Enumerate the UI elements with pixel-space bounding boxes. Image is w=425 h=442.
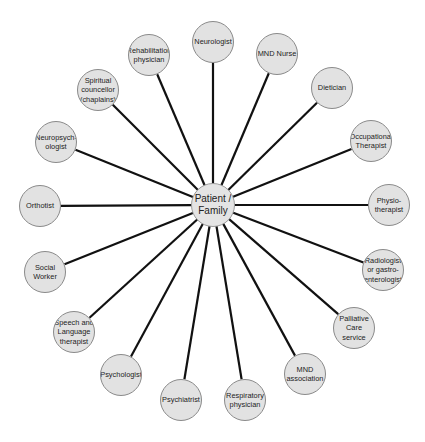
node-label: Psychiatrist: [162, 395, 200, 404]
node-label: MND Nurse: [258, 49, 297, 58]
node-label: Social Worker: [33, 263, 57, 282]
node-label: Respiratory physician: [226, 391, 264, 410]
node-label: Rehabilitation physician: [128, 46, 170, 65]
node-psychologist: Psychologist: [100, 354, 142, 396]
node-neurologist: Neurologist: [192, 21, 234, 63]
center-node-patient-family: Patient / Family: [191, 183, 235, 227]
node-label: Palliative Care service: [334, 314, 374, 342]
node-mnd-nurse: MND Nurse: [256, 33, 298, 75]
node-label: Occupational Therapist: [350, 132, 392, 151]
node-neuropsychologist: Neuropsych- ologist: [35, 121, 77, 163]
node-orthotist: Orthotist: [19, 185, 61, 227]
node-dietician: Dietician: [311, 67, 353, 109]
node-label: Spiritual councellor (chaplains): [80, 76, 116, 104]
node-label: Speech and Language therapist: [54, 318, 93, 346]
node-label: Radiologist or gastro- enterologist: [364, 256, 402, 284]
node-label: Neurologist: [194, 37, 231, 46]
node-mnd-association: MND association: [284, 353, 326, 395]
node-speech-language-therapist: Speech and Language therapist: [53, 311, 95, 353]
connector-social-worker: [65, 213, 194, 264]
node-label: Dietician: [318, 83, 346, 92]
node-psychiatrist: Psychiatrist: [160, 379, 202, 421]
node-palliative-care: Palliative Care service: [333, 307, 375, 349]
node-physiotherapist: Physio- therapist: [368, 184, 410, 226]
node-label: Orthotist: [26, 201, 54, 210]
connector-occupational-therapist: [233, 149, 352, 197]
connector-radiologist: [233, 213, 364, 263]
node-label: MND association: [287, 365, 324, 384]
node-label: Neuropsych- ologist: [35, 133, 77, 152]
center-node-label: Patient / Family: [195, 193, 232, 217]
connector-spiritual-councellor: [113, 105, 198, 190]
node-spiritual-councellor: Spiritual councellor (chaplains): [77, 69, 119, 111]
node-label: Psychologist: [100, 370, 142, 379]
connector-speech-language-therapist: [90, 219, 198, 318]
team-diagram: NeurologistMND NurseDieticianOccupationa…: [0, 0, 425, 442]
node-occupational-therapist: Occupational Therapist: [350, 120, 392, 162]
node-radiologist: Radiologist or gastro- enterologist: [362, 249, 404, 291]
connector-dietician: [228, 103, 317, 191]
connector-mnd-nurse: [221, 73, 269, 185]
connector-neuropsychologist: [76, 150, 194, 197]
connector-rehabilitation-physician: [157, 74, 205, 185]
node-social-worker: Social Worker: [24, 251, 66, 293]
node-respiratory-physician: Respiratory physician: [224, 379, 266, 421]
connector-orthotist: [61, 205, 192, 206]
node-label: Physio- therapist: [375, 196, 403, 215]
node-rehabilitation-physician: Rehabilitation physician: [128, 34, 170, 76]
